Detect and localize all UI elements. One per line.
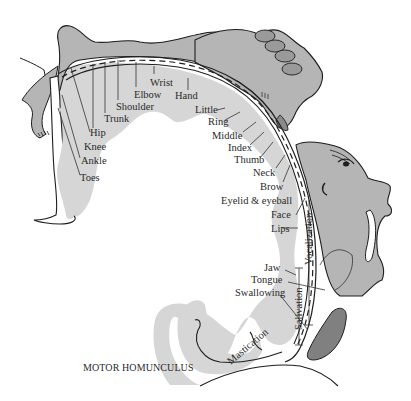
label-hip: Hip: [90, 127, 106, 138]
label-vocalization: Vocalization: [303, 213, 314, 265]
motor-homunculus-diagram: Toes Ankle Knee Hip Trunk Shoulder Elbow…: [0, 0, 411, 401]
label-swallowing: Swallowing: [235, 287, 285, 298]
label-brow: Brow: [260, 181, 283, 192]
label-knee: Knee: [84, 141, 106, 152]
label-neck: Neck: [253, 167, 275, 178]
label-ring: Ring: [208, 116, 228, 127]
label-thumb: Thumb: [234, 154, 264, 165]
label-shoulder: Shoulder: [116, 101, 154, 112]
label-eyelid-eyeball: Eyelid & eyeball: [221, 195, 292, 206]
label-little: Little: [195, 104, 218, 115]
label-hand: Hand: [175, 90, 198, 101]
label-tongue: Tongue: [251, 274, 282, 285]
label-face: Face: [271, 209, 291, 220]
label-middle: Middle: [212, 130, 242, 141]
label-jaw: Jaw: [264, 262, 280, 273]
label-toes: Toes: [80, 172, 100, 183]
label-trunk: Trunk: [104, 113, 129, 124]
label-ankle: Ankle: [81, 155, 107, 166]
label-index: Index: [228, 142, 252, 153]
label-wrist: Wrist: [150, 77, 173, 88]
pharynx: [307, 308, 346, 360]
label-lips: Lips: [271, 223, 290, 234]
homunculus-illustration: [0, 0, 411, 401]
label-salivation: Salivation: [293, 287, 304, 330]
label-elbow: Elbow: [134, 89, 161, 100]
diagram-title: MOTOR HOMUNCULUS: [83, 362, 194, 373]
